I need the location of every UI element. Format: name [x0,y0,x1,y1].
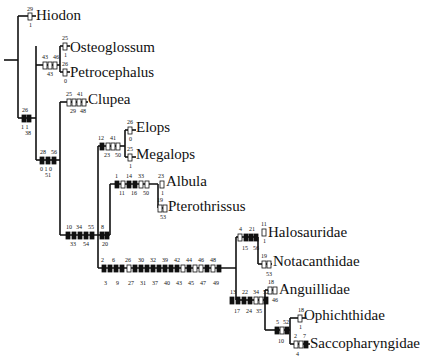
svg-text:33: 33 [70,241,76,247]
svg-text:32: 32 [150,257,156,263]
svg-text:33: 33 [138,173,144,179]
svg-text:39: 39 [162,257,168,263]
svg-text:42: 42 [174,257,180,263]
taxon-hiodon: Hiodon [36,7,82,23]
svg-text:1: 1 [263,238,266,244]
svg-text:46: 46 [198,257,204,263]
svg-text:25: 25 [66,91,72,97]
svg-text:56: 56 [253,245,259,251]
svg-text:48: 48 [210,257,216,263]
taxon-clupea: Clupea [88,91,131,107]
svg-text:25: 25 [62,35,68,41]
svg-text:11: 11 [261,221,267,227]
svg-text:24: 24 [246,308,252,314]
svg-text:49: 49 [213,280,219,286]
svg-text:40: 40 [164,280,170,286]
svg-text:1: 1 [29,22,32,28]
taxon-anguillidae: Anguillidae [279,281,350,297]
taxon-ophichthidae: Ophichthidae [304,307,385,323]
svg-text:50: 50 [115,152,121,158]
svg-text:0: 0 [129,136,132,142]
taxon-halosauridae: Halosauridae [268,224,347,240]
taxon-saccopharyngidae: Saccopharyngidae [310,335,420,351]
svg-text:47: 47 [200,280,206,286]
svg-text:45: 45 [188,280,194,286]
svg-text:28: 28 [40,149,46,155]
svg-text:0: 0 [64,78,67,84]
svg-text:31: 31 [140,280,146,286]
svg-text:2: 2 [294,333,297,339]
svg-text:26: 26 [125,257,131,263]
taxon-elops: Elops [136,119,170,135]
svg-text:43: 43 [176,280,182,286]
svg-text:4: 4 [296,351,299,357]
svg-text:34: 34 [253,289,259,295]
svg-text:23: 23 [158,173,164,179]
svg-text:18: 18 [268,279,274,285]
svg-text:29: 29 [70,108,76,114]
svg-text:50: 50 [143,190,149,196]
svg-text:5: 5 [276,319,279,325]
taxon-petrocephalus: Petrocephalus [70,64,154,80]
svg-text:46: 46 [53,54,59,60]
svg-text:30: 30 [138,257,144,263]
svg-text:11: 11 [119,190,125,196]
svg-text:41: 41 [77,91,83,97]
svg-text:22: 22 [242,289,248,295]
svg-text:35: 35 [256,308,262,314]
svg-text:46: 46 [272,297,278,303]
svg-text:48: 48 [80,108,86,114]
svg-text:52: 52 [283,319,289,325]
svg-text:37: 37 [152,280,158,286]
svg-text:16: 16 [131,190,137,196]
svg-text:9: 9 [116,280,119,286]
svg-text:27: 27 [128,280,134,286]
taxon-albula: Albula [166,173,207,189]
svg-text:1: 1 [299,324,302,330]
svg-text:53: 53 [160,214,166,220]
svg-text:7: 7 [303,333,306,339]
svg-text:44: 44 [186,257,192,263]
svg-text:54: 54 [83,241,89,247]
cladogram: 291 434643 251 260 261 138 25412948 2856… [0,0,432,360]
svg-text:43: 43 [47,71,53,77]
svg-text:1: 1 [64,52,67,58]
svg-text:25: 25 [127,146,133,152]
svg-text:51: 51 [45,172,51,178]
svg-text:10: 10 [278,338,284,344]
svg-text:38: 38 [25,130,31,136]
svg-text:4: 4 [239,226,242,232]
svg-text:29: 29 [27,6,33,12]
svg-text:12: 12 [98,135,104,141]
svg-text:20: 20 [102,241,108,247]
svg-text:41: 41 [110,135,116,141]
svg-text:53: 53 [266,271,272,277]
svg-text:17: 17 [234,308,240,314]
svg-text:6: 6 [112,257,115,263]
svg-text:43: 43 [42,54,48,60]
svg-text:13: 13 [230,289,236,295]
svg-text:15: 15 [242,245,248,251]
svg-text:2: 2 [101,257,104,263]
svg-text:1: 1 [129,163,132,169]
svg-text:10: 10 [66,224,72,230]
svg-text:1: 1 [161,190,164,196]
svg-text:21: 21 [249,226,255,232]
svg-text:26: 26 [22,107,28,113]
svg-text:56: 56 [51,149,57,155]
svg-text:19: 19 [261,253,267,259]
svg-text:23: 23 [104,152,110,158]
taxon-labels: Hiodon Osteoglossum Petrocephalus Clupea… [36,7,420,351]
svg-text:19: 19 [157,197,163,203]
svg-text:14: 14 [126,173,132,179]
svg-text:34: 34 [76,224,82,230]
svg-text:26: 26 [127,119,133,125]
svg-text:8: 8 [101,224,104,230]
svg-text:26: 26 [62,61,68,67]
taxon-notacanthidae: Notacanthidae [273,253,360,269]
svg-text:1: 1 [115,173,118,179]
svg-text:3: 3 [104,280,107,286]
taxon-megalops: Megalops [136,146,195,162]
taxon-pterothrissus: Pterothrissus [168,198,246,214]
svg-text:52: 52 [263,289,269,295]
